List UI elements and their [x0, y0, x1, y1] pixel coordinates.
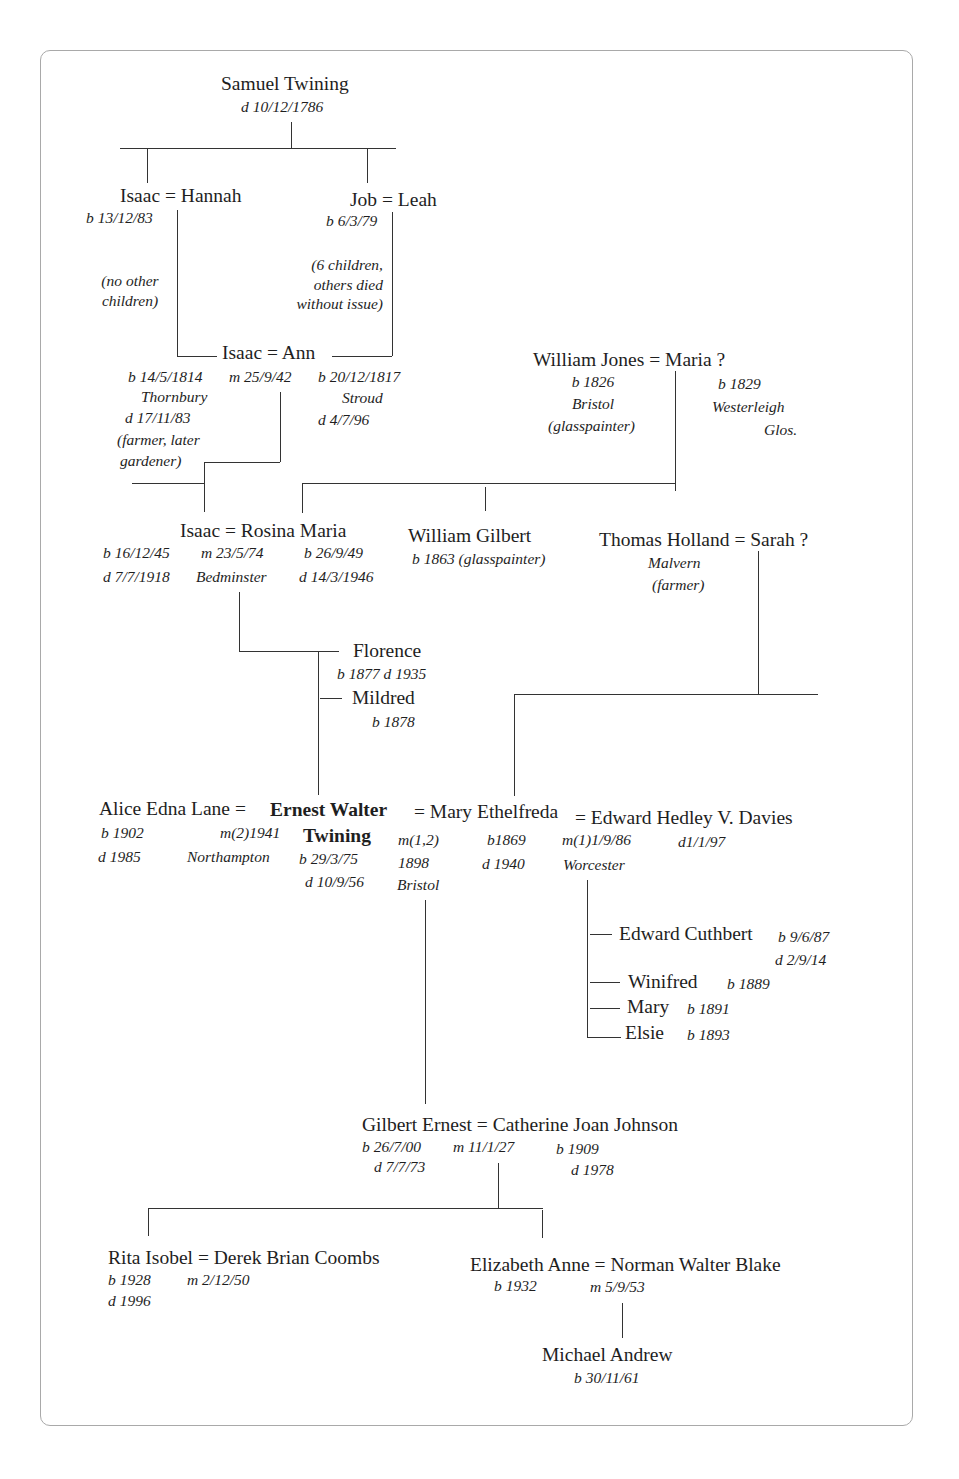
first-marriage-year: 1898 — [398, 855, 429, 871]
connector — [204, 462, 205, 512]
connector — [132, 483, 204, 484]
alice-death: d 1985 — [98, 849, 141, 865]
second-marriage-date: m(2)1941 — [220, 825, 280, 841]
connector — [542, 1210, 543, 1238]
connector — [587, 880, 588, 1037]
connector — [758, 551, 759, 694]
davies-marriage-date: m(1)1/9/86 — [562, 832, 631, 848]
catherine-birth: b 1909 — [556, 1141, 599, 1157]
connector — [302, 483, 303, 513]
ann-birthplace: Stroud — [342, 390, 383, 406]
connector — [148, 1208, 543, 1209]
person-edward-cuthbert: Edward Cuthbert — [619, 924, 753, 944]
connector — [148, 1208, 149, 1236]
connector — [147, 148, 148, 183]
connector — [318, 651, 319, 795]
person-mary: Mary — [627, 997, 669, 1017]
connector — [590, 1008, 620, 1009]
michael-birth: b 30/11/61 — [574, 1370, 640, 1386]
person-ernest-walter: Ernest Walter — [270, 800, 387, 820]
person-elsie: Elsie — [625, 1023, 664, 1043]
william-jones-occupation: (glasspainter) — [548, 418, 635, 434]
thomas-occupation: (farmer) — [652, 577, 705, 593]
maria-place: Westerleigh — [712, 399, 785, 415]
connector — [239, 651, 339, 652]
connector — [302, 483, 675, 484]
couple-gilbert-catherine: Gilbert Ernest = Catherine Joan Johnson — [362, 1115, 678, 1135]
marriage-place: Bedminster — [196, 569, 267, 585]
connector — [120, 148, 396, 149]
couple-isaac-ann: Isaac = Ann — [222, 343, 315, 363]
marriage-date: m 11/1/27 — [453, 1139, 514, 1155]
isaac-birthplace: Thornbury — [141, 389, 207, 405]
marriage-date: m 25/9/42 — [229, 369, 291, 385]
connector — [485, 487, 486, 511]
isaac-death: d 17/11/83 — [125, 410, 191, 426]
connector — [291, 122, 292, 148]
samuel-death: d 10/12/1786 — [241, 99, 323, 115]
couple-isaac-rosina-maria: Isaac = Rosina Maria — [180, 521, 346, 541]
edward-cuthbert-birth: b 9/6/87 — [778, 929, 829, 945]
couple-rita-derek: Rita Isobel = Derek Brian Coombs — [108, 1248, 380, 1268]
connector — [177, 356, 217, 357]
elizabeth-marriage: m 5/9/53 — [590, 1279, 645, 1295]
couple-job-leah: Job = Leah — [350, 190, 437, 210]
connector — [498, 1163, 499, 1209]
rosina-birth: b 26/9/49 — [304, 545, 363, 561]
person-ernest-surname: Twining — [303, 826, 371, 846]
person-florence: Florence — [353, 641, 421, 661]
ernest-birth: b 29/3/75 — [299, 851, 358, 867]
person-mary-ethelfreda: = Mary Ethelfreda — [414, 802, 558, 822]
alice-birth: b 1902 — [101, 825, 144, 841]
note-six-children: (6 children, others died without issue) — [270, 257, 383, 312]
person-mildred: Mildred — [352, 688, 415, 708]
couple-thomas-holland-sarah: Thomas Holland = Sarah ? — [599, 530, 808, 550]
william-jones-birth: b 1826 — [553, 374, 633, 390]
ann-death: d 4/7/96 — [318, 412, 369, 428]
marriage-date: m 23/5/74 — [201, 545, 263, 561]
connector — [587, 1037, 621, 1038]
isaac-birth: b 14/5/1814 — [128, 369, 203, 385]
person-samuel-twining: Samuel Twining — [221, 74, 349, 94]
couple-elizabeth-norman: Elizabeth Anne = Norman Walter Blake — [470, 1255, 781, 1275]
william-jones-place: Bristol — [553, 396, 633, 412]
connector — [280, 392, 281, 462]
florence-dates: b 1877 d 1935 — [337, 666, 426, 682]
couple-isaac-hannah: Isaac = Hannah — [120, 186, 241, 206]
mary-death: d 1940 — [482, 856, 525, 872]
elizabeth-birth: b 1932 — [494, 1278, 537, 1294]
second-marriage-place: Northampton — [187, 849, 270, 865]
rita-birth: b 1928 — [108, 1272, 151, 1288]
isaac-birth: b 16/12/45 — [103, 545, 170, 561]
first-marriage-place: Bristol — [397, 877, 439, 893]
gilbert-death: d 7/7/73 — [374, 1159, 425, 1175]
ernest-death: d 10/9/56 — [305, 874, 364, 890]
note-no-other-children: (no other children) — [92, 273, 168, 308]
william-gilbert-info: b 1863 (glasspainter) — [412, 551, 545, 567]
elsie-birth: b 1893 — [687, 1027, 730, 1043]
connector — [514, 694, 818, 695]
rita-death: d 1996 — [108, 1293, 151, 1309]
person-edward-hedley-davies: = Edward Hedley V. Davies — [575, 808, 793, 828]
connector — [590, 982, 620, 983]
connector — [392, 212, 393, 356]
connector — [425, 900, 426, 1104]
person-michael-andrew: Michael Andrew — [542, 1345, 673, 1365]
connector — [590, 934, 612, 935]
diagram-frame — [40, 50, 913, 1426]
winifred-birth: b 1889 — [727, 976, 770, 992]
isaac-occupation-cont: gardener) — [120, 453, 181, 469]
person-william-gilbert: William Gilbert — [408, 526, 531, 546]
mary-davies-birth: b 1891 — [687, 1001, 730, 1017]
maria-county: Glos. — [764, 422, 797, 438]
connector — [367, 148, 368, 183]
isaac-occupation: (farmer, later — [117, 432, 200, 448]
connector — [320, 698, 342, 699]
ann-birth: b 20/12/1817 — [318, 369, 400, 385]
connector — [675, 371, 676, 491]
couple-william-jones-maria: William Jones = Maria ? — [533, 350, 725, 370]
thomas-place: Malvern — [648, 555, 701, 571]
connector — [514, 694, 515, 796]
rita-marriage: m 2/12/50 — [187, 1272, 249, 1288]
job-birth: b 6/3/79 — [326, 213, 377, 229]
